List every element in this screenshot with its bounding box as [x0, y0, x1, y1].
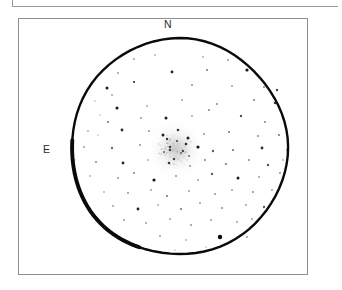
star-point	[253, 99, 255, 101]
cluster-glow-layer	[145, 118, 208, 181]
star-point	[251, 218, 253, 220]
star-point	[152, 178, 155, 181]
cluster-speckle	[175, 150, 176, 151]
cluster-speckle	[190, 141, 192, 143]
star-point	[182, 150, 184, 152]
cluster-speckle	[180, 154, 181, 155]
star-point	[271, 189, 273, 191]
cluster-speckle	[183, 156, 185, 158]
star-point	[168, 162, 171, 165]
star-point	[197, 179, 199, 181]
star-point	[157, 204, 159, 206]
cluster-speckle	[184, 164, 185, 165]
star-point	[191, 84, 193, 86]
cluster-speckle	[164, 148, 166, 150]
star-point	[180, 208, 182, 210]
star-point	[121, 129, 124, 132]
star-point	[190, 224, 192, 226]
star-point	[116, 107, 119, 110]
cluster-speckle	[158, 143, 160, 145]
cluster-speckle	[164, 154, 166, 156]
star-point	[133, 172, 135, 174]
orientation-label-north: N	[164, 19, 172, 30]
cluster-star-point	[163, 151, 165, 153]
star-point	[278, 134, 280, 136]
cluster-star-point	[166, 138, 168, 140]
star-point	[133, 58, 135, 60]
cluster-speckle	[167, 135, 168, 136]
cluster-star-point	[185, 143, 188, 146]
star-point	[248, 159, 250, 161]
star-point	[203, 133, 205, 135]
cluster-speckle	[169, 140, 171, 142]
star-point	[263, 86, 265, 88]
star-point	[148, 130, 150, 132]
star-point	[225, 163, 227, 165]
cluster-speckle	[166, 143, 167, 144]
star-point	[267, 164, 269, 166]
star-point	[216, 103, 218, 105]
star-point	[111, 147, 113, 149]
star-point	[174, 249, 176, 251]
star-point	[236, 221, 238, 223]
cluster-speckle	[165, 147, 166, 148]
star-point	[169, 218, 171, 220]
star-point	[145, 222, 147, 224]
star-point	[165, 117, 168, 120]
cluster-speckle	[172, 143, 174, 145]
star-point	[95, 161, 97, 163]
orientation-label-east: E	[43, 144, 50, 155]
star-point	[140, 117, 142, 119]
cluster-speckle	[177, 143, 178, 144]
star-point	[210, 219, 212, 221]
cluster-speckle	[169, 164, 171, 166]
cluster-speckle	[169, 152, 170, 153]
cluster-speckle	[173, 135, 174, 136]
star-point	[208, 109, 210, 111]
cluster-speckle	[179, 157, 180, 158]
cluster-speckle	[178, 143, 179, 144]
fov-circle-heavy-limb	[72, 140, 139, 247]
star-point	[257, 135, 259, 137]
star-point	[191, 115, 193, 117]
star-point	[263, 206, 265, 208]
star-point	[214, 193, 216, 195]
cluster-speckle	[177, 158, 179, 160]
star-point	[204, 159, 206, 161]
star-point	[212, 150, 214, 152]
star-point	[276, 89, 278, 91]
star-point	[177, 129, 180, 132]
star-point	[189, 165, 191, 167]
star-point	[196, 145, 199, 148]
star-point	[231, 189, 233, 191]
cluster-speckle	[167, 146, 168, 147]
cluster-speckle	[172, 145, 173, 146]
star-point	[221, 207, 223, 209]
star-point	[205, 246, 207, 248]
cluster-speckle	[171, 149, 173, 151]
sketch-page: N E	[0, 0, 342, 290]
star-point	[107, 121, 109, 123]
cluster-speckle	[177, 151, 178, 152]
star-point	[112, 205, 114, 207]
star-point	[146, 105, 148, 107]
cluster-speckle	[174, 148, 175, 149]
cluster-speckle	[163, 149, 164, 150]
star-point	[199, 202, 201, 204]
star-point	[274, 102, 277, 105]
cluster-speckle	[181, 161, 182, 162]
cluster-star-point	[176, 140, 178, 142]
star-point	[117, 177, 119, 179]
star-point	[103, 191, 105, 193]
star-point	[218, 235, 222, 239]
eyepiece-field-drawing	[0, 0, 342, 290]
star-point	[228, 131, 230, 133]
star-point	[169, 146, 172, 149]
cluster-speckle	[179, 160, 180, 161]
cluster-star-point	[180, 152, 182, 154]
cluster-star-point	[188, 155, 190, 157]
star-point	[74, 159, 76, 161]
star-point	[245, 204, 247, 206]
star-point	[240, 115, 242, 117]
star-point	[99, 114, 101, 116]
